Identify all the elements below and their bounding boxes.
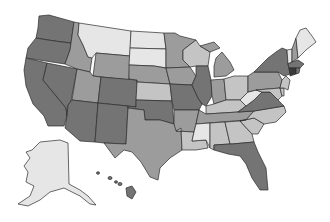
state-north-dakota[interactable]	[130, 31, 166, 49]
state-connecticut[interactable]	[289, 68, 296, 76]
us-choropleth-map	[0, 0, 330, 222]
state-alaska[interactable]	[18, 140, 96, 206]
us-map-svg	[0, 0, 330, 222]
state-montana[interactable]	[78, 23, 131, 58]
state-florida[interactable]	[214, 142, 268, 190]
state-arizona[interactable]	[65, 100, 98, 142]
state-maine[interactable]	[296, 28, 316, 58]
state-indiana[interactable]	[211, 79, 226, 104]
state-colorado[interactable]	[98, 77, 137, 107]
state-wyoming[interactable]	[93, 53, 130, 80]
state-kansas[interactable]	[136, 82, 172, 101]
state-iowa[interactable]	[166, 67, 196, 85]
state-vermont[interactable]	[287, 49, 292, 64]
state-new-mexico[interactable]	[95, 103, 128, 144]
state-new-jersey[interactable]	[280, 76, 290, 90]
state-rhode-island[interactable]	[296, 68, 300, 74]
state-hawaii[interactable]	[97, 172, 137, 199]
state-new-york[interactable]	[254, 48, 290, 76]
